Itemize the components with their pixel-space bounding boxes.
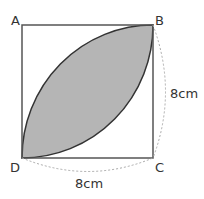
vertex-label-c: C <box>155 161 164 174</box>
bottom-side-length-label: 8cm <box>75 177 103 190</box>
bottom-dimension-arc <box>22 158 153 172</box>
shaded-lens-region <box>22 25 153 158</box>
vertex-label-a: A <box>11 14 20 27</box>
vertex-label-b: B <box>155 14 164 27</box>
vertex-label-d: D <box>10 161 20 174</box>
right-side-length-label: 8cm <box>170 87 198 100</box>
right-dimension-arc <box>153 25 166 158</box>
